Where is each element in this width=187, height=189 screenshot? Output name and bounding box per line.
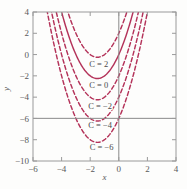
x-tick-label: 4 — [174, 164, 179, 174]
curve-label: C = 2 — [89, 59, 108, 69]
y-tick-label: −8 — [19, 135, 29, 145]
x-axis-title: x — [102, 172, 107, 182]
y-tick-label: −6 — [19, 114, 29, 124]
curve-label: C = −6 — [90, 142, 114, 152]
y-tick-label: −4 — [19, 92, 29, 102]
x-tick-label: −2 — [85, 164, 95, 174]
y-tick-label: 0 — [25, 50, 30, 60]
x-tick-label: −4 — [57, 164, 67, 174]
chart-figure: −10−8−6−4−2024 −6−4−2024 x y C = 2C = 2C… — [0, 0, 187, 189]
x-tick-label: −6 — [28, 164, 38, 174]
y-tick-label: −2 — [19, 71, 29, 81]
y-axis-title: y — [1, 87, 11, 92]
curve-label: C = −2 — [88, 101, 112, 111]
parabola-family-plot: −10−8−6−4−2024 −6−4−2024 x y C = 2C = 2C… — [0, 0, 187, 189]
curve-label: C = 0 — [89, 80, 108, 90]
y-tick-label-group: −10−8−6−4−2024 — [15, 7, 30, 166]
x-tick-label: 0 — [117, 164, 122, 174]
x-tick-label: 2 — [145, 164, 150, 174]
y-tick-label: 4 — [25, 7, 30, 17]
curve-label: C = −4 — [88, 120, 113, 130]
y-tick-label: 2 — [25, 28, 30, 38]
